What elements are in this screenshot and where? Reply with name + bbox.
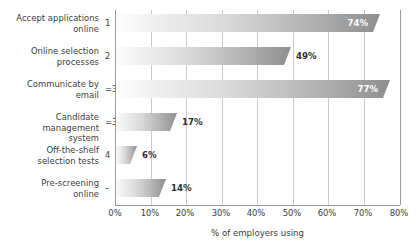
category-label: Online selection processes	[0, 46, 99, 67]
bar[interactable]	[116, 80, 390, 98]
category-label-line2: online	[73, 189, 99, 199]
x-axis-tick: 80%	[390, 208, 409, 218]
x-axis-tick: 20%	[176, 208, 195, 218]
category-label: Accept applications online	[0, 13, 99, 34]
category-label: Off-the-shelf selection tests	[0, 145, 99, 166]
category-label-line1: Accept applications	[16, 13, 99, 23]
bar-row[interactable]: 77%	[116, 80, 390, 98]
category-label-line1: Communicate by	[27, 79, 99, 89]
bar[interactable]	[116, 179, 166, 197]
x-axis-tick: 60%	[318, 208, 337, 218]
bar-value-label: 74%	[347, 18, 368, 28]
category-label-line2: system	[68, 133, 99, 143]
x-axis-tick: 10%	[141, 208, 160, 218]
bar-value-label: 6%	[142, 150, 157, 160]
bar-row[interactable]: 74%	[116, 14, 380, 32]
category-label-line2: selection tests	[37, 156, 99, 166]
category-label: Communicate by email	[0, 79, 99, 100]
x-axis-tick: 30%	[212, 208, 231, 218]
bar-row[interactable]: 17%	[116, 113, 177, 131]
category-label-line1: Candidate management	[42, 112, 99, 133]
category-label-line1: Online selection	[31, 46, 99, 56]
x-axis-tick: 0%	[108, 208, 121, 218]
bar[interactable]	[116, 47, 291, 65]
gridline	[364, 10, 365, 205]
x-axis-tick-labels: 0% 10% 20% 30% 40% 50% 60% 70% 80%	[115, 208, 400, 222]
bar-value-label: 17%	[182, 117, 203, 127]
bar[interactable]	[116, 146, 137, 164]
bar-row[interactable]: 14%	[116, 179, 166, 197]
category-label-line2: email	[76, 90, 99, 100]
bar-value-label: 14%	[171, 183, 192, 193]
category-label-line2: processes	[57, 57, 99, 67]
bar[interactable]	[116, 14, 380, 32]
gridline	[328, 10, 329, 205]
gridline	[186, 10, 187, 205]
plot-area: 74% 49% 77% 17% 6% 14%	[115, 10, 400, 206]
x-axis-tick: 40%	[247, 208, 266, 218]
category-label-line2: online	[73, 24, 99, 34]
category-label-line1: Pre-screening	[41, 178, 99, 188]
category-label-column: Accept applications online Online select…	[0, 10, 103, 206]
bar-value-label: 77%	[357, 84, 378, 94]
bar-value-label: 49%	[296, 51, 317, 61]
x-axis-tick: 70%	[354, 208, 373, 218]
bar-chart: Accept applications online Online select…	[0, 0, 417, 250]
gridline	[222, 10, 223, 205]
x-axis-tick: 50%	[283, 208, 302, 218]
category-label: Candidate management system	[0, 112, 99, 144]
bar-row[interactable]: 6%	[116, 146, 137, 164]
bar-row[interactable]: 49%	[116, 47, 291, 65]
gridline	[257, 10, 258, 205]
gridline	[293, 10, 294, 205]
gridline	[400, 10, 401, 205]
bar[interactable]	[116, 113, 177, 131]
x-axis-title: % of employers using	[115, 228, 400, 238]
category-label-line1: Off-the-shelf	[46, 145, 99, 155]
category-label: Pre-screening online	[0, 178, 99, 199]
gridline	[151, 10, 152, 205]
